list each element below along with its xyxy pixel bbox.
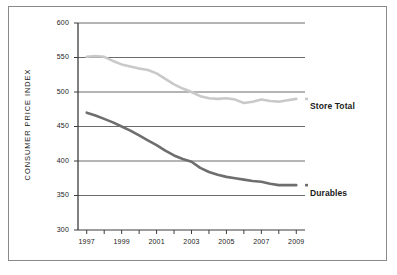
y-tick-label: 500 — [47, 88, 69, 95]
gridlines — [78, 23, 305, 230]
series-label-store-total: Store Total — [310, 101, 355, 111]
x-tick-label: 2007 — [248, 238, 274, 245]
x-tick-label: 2001 — [144, 238, 170, 245]
y-tick-label: 300 — [47, 226, 69, 233]
x-tick-label: 1999 — [109, 238, 135, 245]
x-tick-label: 1997 — [74, 238, 100, 245]
chart-figure: 300350400450500550600 199719992001200320… — [0, 0, 397, 275]
series-label-durables: Durables — [310, 188, 347, 198]
legend-line-markers — [305, 99, 308, 185]
x-tick-label: 2003 — [179, 238, 205, 245]
data-series-group — [87, 56, 297, 185]
x-axis-ticks — [87, 230, 297, 234]
x-tick-label: 2005 — [213, 238, 239, 245]
y-tick-label: 400 — [47, 157, 69, 164]
x-tick-label: 2009 — [283, 238, 309, 245]
y-axis-title: CONSUMER PRICE INDEX — [23, 65, 32, 185]
line-chart-plot — [0, 0, 397, 275]
y-tick-label: 600 — [47, 19, 69, 26]
y-tick-label: 550 — [47, 53, 69, 60]
y-tick-label: 350 — [47, 191, 69, 198]
y-tick-label: 450 — [47, 122, 69, 129]
